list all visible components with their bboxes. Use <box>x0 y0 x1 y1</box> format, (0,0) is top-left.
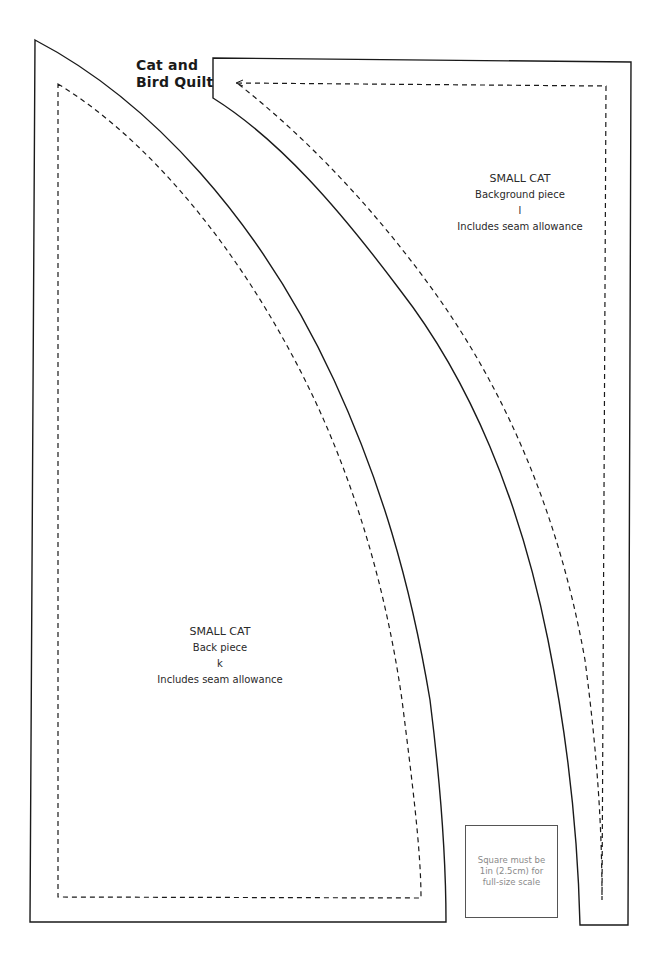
piece-type: Background piece <box>440 187 600 203</box>
scale-line-3: full-size scale <box>478 877 545 888</box>
background-piece-label: SMALL CAT Background piece l Includes se… <box>440 171 600 235</box>
piece-type: Back piece <box>140 640 300 656</box>
document-title: Cat and Bird Quilt <box>136 57 213 91</box>
piece-note: Includes seam allowance <box>140 672 300 688</box>
piece-letter: l <box>440 203 600 219</box>
piece-name: SMALL CAT <box>140 624 300 640</box>
back-piece-outline <box>30 40 446 922</box>
scale-line-1: Square must be <box>478 855 545 866</box>
pattern-pieces <box>0 0 661 958</box>
back-piece-seam-line <box>58 84 421 898</box>
piece-letter: k <box>140 656 300 672</box>
piece-name: SMALL CAT <box>440 171 600 187</box>
title-line-1: Cat and <box>136 57 213 74</box>
piece-note: Includes seam allowance <box>440 219 600 235</box>
scale-instructions: Square must be 1in (2.5cm) for full-size… <box>478 855 545 888</box>
scale-reference-square: Square must be 1in (2.5cm) for full-size… <box>465 825 558 918</box>
back-piece-label: SMALL CAT Back piece k Includes seam all… <box>140 624 300 688</box>
title-line-2: Bird Quilt <box>136 74 213 91</box>
scale-line-2: 1in (2.5cm) for <box>478 866 545 877</box>
